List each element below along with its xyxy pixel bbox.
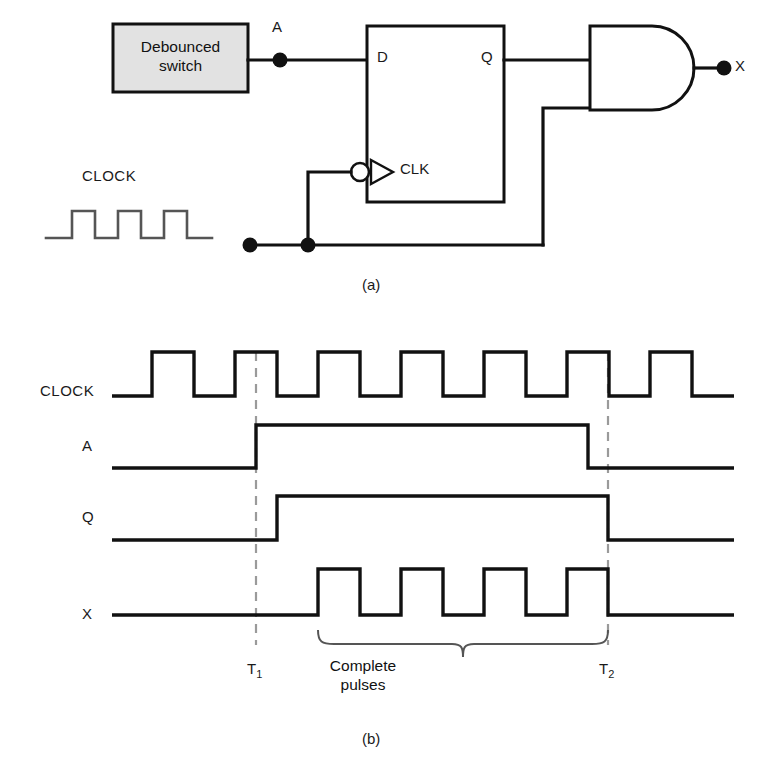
- complete-pulses-brace: [318, 630, 608, 657]
- label-clock-source: CLOCK: [82, 167, 136, 184]
- figure-canvas: Debounced switch A D Q CLK X CLOCK (a) C…: [0, 0, 774, 773]
- node-a-dot: [273, 53, 288, 68]
- waveform-clock: [112, 352, 734, 396]
- timing-label-clock: CLOCK: [40, 382, 94, 399]
- wire-clock-to-clk: [308, 172, 351, 245]
- timing-label-a: A: [82, 437, 92, 454]
- caption-b: (b): [362, 730, 380, 747]
- complete-pulses-line2: pulses: [341, 676, 386, 693]
- node-x-dot: [717, 61, 732, 76]
- timing-label-x: X: [82, 605, 92, 622]
- label-node-a: A: [272, 18, 282, 35]
- marker-t1-sub: 1: [256, 668, 262, 680]
- waveform-q: [112, 496, 734, 540]
- marker-t2-letter: T: [599, 660, 608, 677]
- clock-tap-1-dot: [243, 238, 258, 253]
- clock-tap-2-dot: [301, 238, 316, 253]
- marker-t2-label: T2: [599, 660, 614, 680]
- label-q-output: Q: [481, 48, 493, 65]
- timing-label-q: Q: [82, 508, 94, 525]
- clock-waveform-icon: [46, 211, 212, 238]
- debounced-switch-label-line2: switch: [159, 57, 202, 74]
- caption-a: (a): [362, 276, 380, 293]
- debounced-switch-label: Debounced switch: [113, 37, 248, 75]
- waveform-a: [112, 425, 734, 468]
- label-d-input: D: [377, 48, 388, 65]
- complete-pulses-label: Complete pulses: [263, 656, 463, 694]
- clk-inverting-bubble: [351, 163, 369, 181]
- waveform-x: [112, 569, 734, 615]
- label-node-x: X: [735, 57, 745, 74]
- wire-clock-to-and: [543, 108, 590, 245]
- marker-t1-label: T1: [247, 660, 262, 680]
- complete-pulses-line1: Complete: [330, 657, 396, 674]
- label-clk-input: CLK: [400, 160, 429, 177]
- marker-t2-sub: 2: [608, 668, 614, 680]
- and-gate-body: [590, 26, 694, 110]
- debounced-switch-label-line1: Debounced: [141, 38, 220, 55]
- marker-t1-letter: T: [247, 660, 256, 677]
